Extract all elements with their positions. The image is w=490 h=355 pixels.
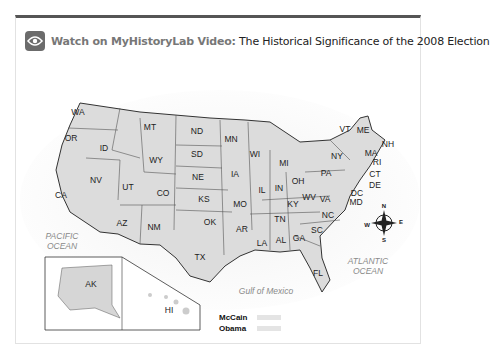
eye-icon[interactable]	[25, 31, 45, 51]
state-label-me: ME	[357, 125, 370, 135]
state-label-ri: RI	[373, 157, 382, 167]
state-label-oh: OH	[292, 176, 305, 186]
legend-swatch	[257, 326, 281, 331]
brand-label[interactable]: Watch on MyHistoryLab Video:	[51, 35, 236, 48]
state-label-ok: OK	[204, 217, 216, 227]
legend: McCain Obama	[219, 312, 281, 334]
state-label-ar: AR	[236, 224, 248, 234]
state-label-ct: CT	[369, 169, 380, 179]
state-label-al: AL	[276, 235, 286, 245]
state-label-mo: MO	[233, 199, 247, 209]
compass-e-label: E	[399, 219, 403, 225]
legend-swatch	[257, 315, 281, 320]
state-label-wy: WY	[149, 155, 163, 165]
state-label-co: CO	[157, 188, 170, 198]
state-label-pa: PA	[321, 168, 332, 178]
state-label-in: IN	[275, 183, 284, 193]
water-label: ATLANTICOCEAN	[348, 256, 388, 276]
state-label-nd: ND	[191, 126, 203, 136]
water-label: PACIFICOCEAN	[46, 231, 79, 251]
legend-item-obama: Obama	[219, 323, 281, 334]
state-label-az: AZ	[117, 218, 128, 228]
state-label-ne: NE	[192, 172, 204, 182]
state-label-va: VA	[320, 194, 331, 204]
state-label-la: LA	[257, 238, 267, 248]
state-label-hi: HI	[165, 305, 174, 315]
water-label: Gulf of Mexico	[239, 286, 293, 296]
state-label-or: OR	[65, 133, 78, 143]
state-label-nv: NV	[90, 175, 102, 185]
state-label-ia: IA	[231, 169, 239, 179]
state-label-ny: NY	[331, 151, 343, 161]
state-label-vt: VT	[340, 124, 351, 134]
state-label-nh: NH	[382, 139, 394, 149]
state-label-sd: SD	[191, 149, 203, 159]
legend-item-mccain: McCain	[219, 312, 281, 323]
state-label-wv: WV	[302, 192, 316, 202]
state-label-ca: CA	[55, 190, 67, 200]
state-label-id: ID	[100, 143, 109, 153]
state-label-wa: WA	[71, 107, 84, 117]
state-label-mn: MN	[224, 134, 237, 144]
state-label-tn: TN	[274, 214, 285, 224]
header-text[interactable]: Watch on MyHistoryLab Video: The Histori…	[51, 35, 490, 48]
state-label-tx: TX	[195, 252, 206, 262]
state-label-ut: UT	[122, 182, 133, 192]
state-label-mi: MI	[279, 158, 288, 168]
compass-w-label: W	[364, 222, 370, 228]
state-label-ks: KS	[198, 194, 209, 204]
compass-n-label: N	[382, 203, 386, 209]
video-title[interactable]: The Historical Significance of the 2008 …	[239, 35, 489, 48]
state-label-il: IL	[258, 185, 265, 195]
state-label-sc: SC	[311, 225, 323, 235]
video-link-header[interactable]: Watch on MyHistoryLab Video: The Histori…	[25, 30, 490, 52]
state-label-ga: GA	[293, 233, 305, 243]
compass-s-label: S	[382, 237, 386, 243]
state-label-mt: MT	[144, 122, 156, 132]
state-label-md: MD	[349, 197, 362, 207]
state-label-ky: KY	[287, 199, 298, 209]
state-label-fl: FL	[313, 268, 323, 278]
state-label-ak: AK	[85, 279, 96, 289]
state-label-nc: NC	[322, 210, 334, 220]
state-label-de: DE	[369, 180, 381, 190]
state-label-wi: WI	[250, 149, 260, 159]
state-label-nm: NM	[147, 222, 160, 232]
